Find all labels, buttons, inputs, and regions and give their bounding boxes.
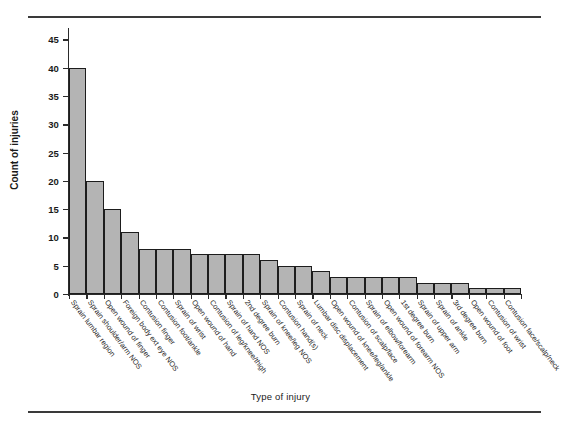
bar: [451, 283, 468, 294]
y-tick-label: 30: [0, 119, 59, 130]
x-tick-mark: [312, 294, 313, 299]
y-tick-label: 45: [0, 34, 59, 45]
bar: [382, 277, 399, 294]
figure-bar-chart: Count of injuries 051015202530354045 Spr…: [0, 0, 561, 426]
x-tick-mark: [104, 294, 105, 299]
bar: [278, 266, 295, 294]
y-tick-mark: [63, 266, 68, 267]
x-tick-mark: [260, 294, 261, 299]
x-tick-mark: [225, 294, 226, 299]
y-tick-label: 20: [0, 175, 59, 186]
y-tick-label: 5: [0, 260, 59, 271]
bar: [121, 232, 138, 294]
bar: [486, 288, 503, 294]
bar: [191, 254, 208, 294]
y-tick-mark: [63, 237, 68, 238]
x-tick-mark: [347, 294, 348, 299]
x-tick-mark: [156, 294, 157, 299]
bar: [417, 283, 434, 294]
x-tick-mark: [504, 294, 505, 299]
x-tick-mark: [330, 294, 331, 299]
x-tick-mark: [121, 294, 122, 299]
bar: [365, 277, 382, 294]
bar: [104, 209, 121, 294]
y-tick-mark: [63, 294, 68, 295]
x-tick-mark: [382, 294, 383, 299]
x-tick-mark: [191, 294, 192, 299]
x-tick-mark: [173, 294, 174, 299]
x-tick-mark: [86, 294, 87, 299]
x-tick-mark: [208, 294, 209, 299]
y-tick-mark: [63, 39, 68, 40]
bar: [225, 254, 242, 294]
bar: [86, 181, 103, 294]
y-tick-label: 10: [0, 232, 59, 243]
bar: [139, 249, 156, 294]
y-tick-mark: [63, 124, 68, 125]
x-tick-mark: [139, 294, 140, 299]
x-tick-mark: [469, 294, 470, 299]
x-tick-mark: [295, 294, 296, 299]
y-tick-label: 0: [0, 289, 59, 300]
x-axis-title: Type of injury: [0, 391, 561, 402]
bar: [330, 277, 347, 294]
y-tick-label: 40: [0, 62, 59, 73]
y-tick-label: 15: [0, 204, 59, 215]
x-tick-mark: [365, 294, 366, 299]
x-tick-mark: [399, 294, 400, 299]
bar: [156, 249, 173, 294]
bar: [434, 283, 451, 294]
bar: [504, 288, 521, 294]
bar: [243, 254, 260, 294]
y-tick-mark: [63, 96, 68, 97]
y-tick-mark: [63, 68, 68, 69]
bar: [69, 68, 86, 294]
x-tick-mark: [434, 294, 435, 299]
x-tick-mark: [278, 294, 279, 299]
y-tick-mark: [63, 209, 68, 210]
figure-top-rule: [28, 16, 541, 18]
x-tick-mark: [451, 294, 452, 299]
bar: [347, 277, 364, 294]
x-tick-mark: [243, 294, 244, 299]
bar: [173, 249, 190, 294]
y-tick-mark: [63, 181, 68, 182]
x-tick-mark: [521, 294, 522, 299]
figure-bottom-rule: [28, 411, 541, 413]
bar: [399, 277, 416, 294]
bar: [295, 266, 312, 294]
bar: [469, 288, 486, 294]
y-tick-mark: [63, 153, 68, 154]
x-tick-mark: [486, 294, 487, 299]
bar: [312, 271, 329, 294]
y-tick-label: 35: [0, 90, 59, 101]
bar: [260, 260, 277, 294]
y-tick-label: 25: [0, 147, 59, 158]
x-tick-mark: [417, 294, 418, 299]
bar: [208, 254, 225, 294]
x-tick-mark: [69, 294, 70, 299]
